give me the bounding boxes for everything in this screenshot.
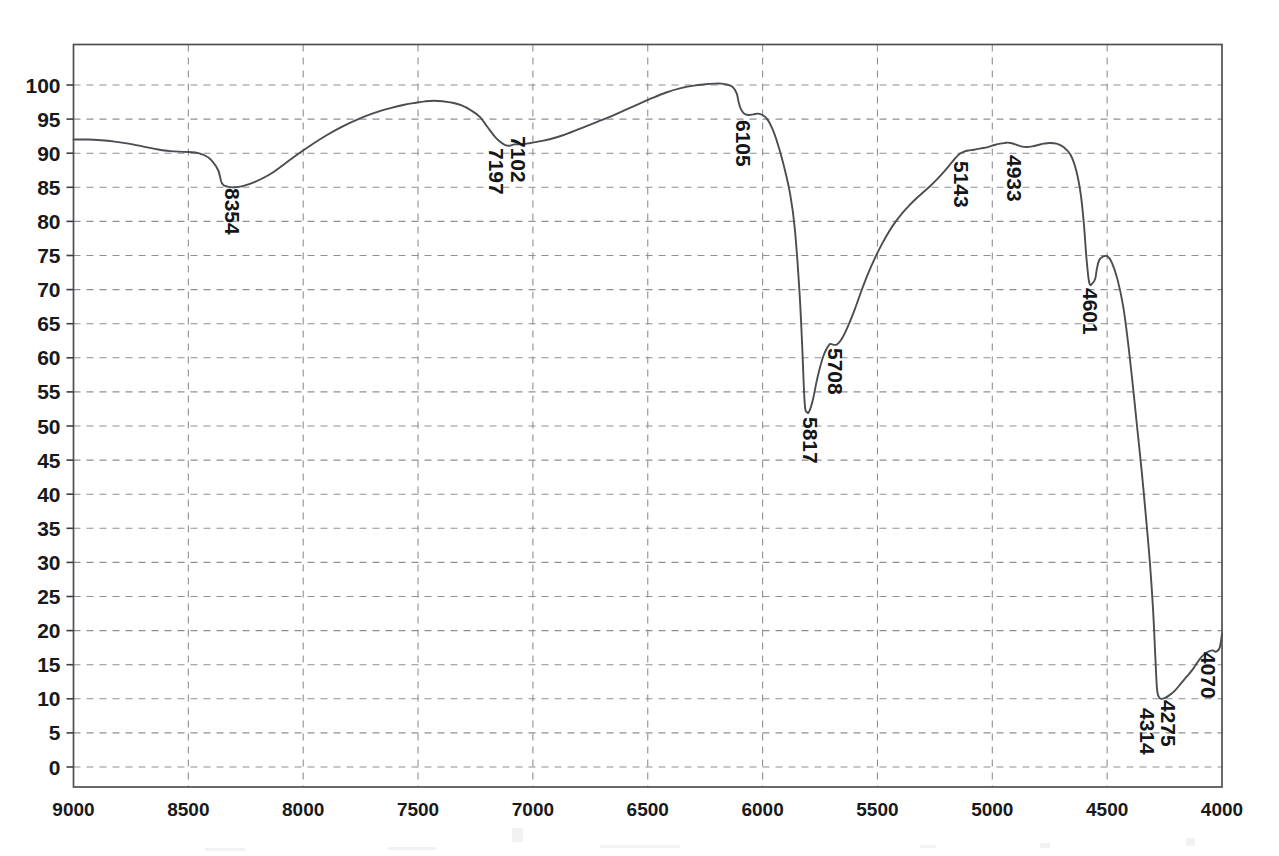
x-tick-label: 5500 — [856, 799, 898, 820]
y-tick-label: 30 — [37, 551, 60, 574]
y-tick-label: 55 — [37, 380, 61, 403]
y-tick-label: 85 — [37, 176, 61, 199]
x-tick-label: 7000 — [512, 799, 554, 820]
peak-label: 5143 — [950, 161, 973, 208]
y-tick-label: 0 — [49, 756, 61, 779]
scan-artifact — [1186, 838, 1195, 846]
y-tick-label: 65 — [37, 312, 61, 335]
chart-background — [0, 0, 1279, 856]
x-tick-label: 5000 — [971, 799, 1013, 820]
scan-artifact — [600, 845, 680, 848]
peak-label: 7197 — [485, 148, 508, 195]
x-tick-label: 6000 — [741, 799, 783, 820]
peak-label: 5817 — [799, 417, 822, 464]
y-tick-label: 75 — [37, 244, 61, 267]
peak-label: 8354 — [221, 188, 244, 235]
y-tick-label: 70 — [37, 278, 60, 301]
peak-label: 4314 — [1136, 708, 1159, 755]
y-tick-label: 40 — [37, 483, 60, 506]
y-tick-label: 5 — [49, 721, 61, 744]
x-tick-label: 6500 — [627, 799, 669, 820]
x-tick-label: 7500 — [397, 799, 439, 820]
y-tick-label: 90 — [37, 142, 60, 165]
peak-label: 4601 — [1079, 288, 1102, 335]
y-tick-label: 50 — [37, 415, 60, 438]
nir-spectrum-chart: 0510152025303540455055606570758085909510… — [0, 0, 1279, 856]
peak-label: 4070 — [1197, 652, 1220, 699]
y-tick-label: 15 — [37, 653, 61, 676]
x-tick-label: 8500 — [167, 799, 209, 820]
scan-artifact — [205, 848, 245, 851]
y-tick-label: 80 — [37, 210, 60, 233]
y-tick-label: 100 — [25, 74, 60, 97]
x-tick-label: 4500 — [1086, 799, 1128, 820]
peak-label: 5708 — [824, 348, 847, 395]
scan-artifact — [512, 828, 523, 842]
y-tick-label: 95 — [37, 108, 61, 131]
y-tick-label: 35 — [37, 517, 61, 540]
y-tick-label: 20 — [37, 619, 60, 642]
axis-tickmarks — [67, 85, 74, 767]
x-tick-label: 4000 — [1201, 799, 1243, 820]
y-tick-label: 10 — [37, 687, 60, 710]
y-tick-label: 60 — [37, 346, 60, 369]
y-tick-label: 45 — [37, 449, 61, 472]
x-tick-label: 9000 — [52, 799, 94, 820]
peak-label: 6105 — [732, 120, 755, 167]
peak-label: 4933 — [1003, 155, 1026, 202]
spectrum-plot: 0510152025303540455055606570758085909510… — [0, 0, 1279, 856]
scan-artifact — [1040, 843, 1050, 848]
peak-label: 7102 — [507, 136, 530, 183]
peak-label: 4275 — [1157, 700, 1180, 747]
scan-artifact — [920, 845, 936, 848]
x-tick-label: 8000 — [282, 799, 324, 820]
y-tick-label: 25 — [37, 585, 61, 608]
scan-artifact — [388, 847, 436, 850]
